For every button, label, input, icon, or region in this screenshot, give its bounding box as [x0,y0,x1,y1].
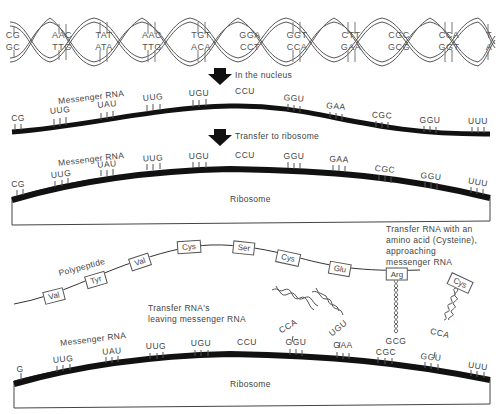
dna-top-base: TAT [95,30,112,40]
codon: G [16,364,23,374]
codon: CG [11,179,25,189]
dna-bottom-base: TTG [52,42,72,52]
codon: CCU [237,337,257,347]
codon: GGU [420,170,442,182]
amino-acid-box: Ser [232,240,256,255]
dna-top-base: GGA [239,30,261,40]
codon: GGU [420,115,441,125]
codon: GGU [286,337,307,347]
codon: CGC [372,109,393,120]
dna-top-base: AAC [142,30,162,40]
codon: UAU [97,98,117,110]
codon: GAA [326,100,346,112]
codon: UGU [189,88,209,98]
codon: CGC [376,347,396,357]
codon: UUG [49,104,70,116]
dna-top-base: GGT [287,30,308,40]
dna-top-base: CTT [342,30,361,40]
trna-bound [394,279,397,333]
dna-bottom-base: A [486,42,493,52]
codon: GGU [284,151,305,161]
codon: UUU [468,116,488,126]
dna-top-base: CG [6,30,21,40]
codon: UGU [191,338,211,348]
dna-bottom-base: CCT [240,42,260,52]
trna-approaching-note: Transfer RNA with an amino acid (Cystein… [386,224,477,268]
arrow-down-icon [208,129,232,146]
dna-bottom-base: CCA [287,42,308,52]
codon: GAA [333,340,352,350]
codon: GGU [283,92,305,103]
codon: UUG [142,91,163,103]
codon: GAA [329,153,349,164]
trna-leaving-note: Transfer RNA's leaving messenger RNA [148,303,246,325]
dna-bottom-base: ATA [95,42,113,52]
trna-leaving-2 [312,288,343,315]
dna-bottom-base: GC [6,42,21,52]
codon: CCU [235,150,255,160]
dna-top-base: T [486,30,492,40]
codon: CG [11,113,25,123]
dna-top-base: TGT [191,30,211,40]
dna-bottom-base: GAA [341,42,362,52]
dna-bottom-base: TTG [142,42,162,52]
codon: UUG [52,353,73,365]
codon: CCU [235,86,255,96]
dna-bottom-base: GCG [388,42,410,52]
codon: UUG [146,341,166,351]
step-label-nucleus: In the nucleus [235,70,292,80]
dna-top-base: CCA [439,30,460,40]
codon: UAU [102,345,122,357]
ribosome-label: Ribosome [230,194,271,204]
codon: UAU [97,158,117,170]
mrna-strand-1 [12,106,490,134]
polypeptide-chain [14,245,420,304]
amino-acid-box: Cys [177,240,202,255]
arrow-down-icon [208,68,232,85]
dna-top-base: AAC [52,30,72,40]
dna-top-base: CGC [388,30,410,40]
step-label-transfer: Transfer to ribosome [235,131,319,141]
codon: UGU [189,151,209,161]
trna-approaching [444,288,458,320]
codon: UUG [143,152,164,163]
amino-acid-box: Arg [386,268,408,281]
dna-bottom-base: GGT [439,42,460,52]
codon: GGU [420,351,442,363]
ribosome-label: Ribosome [230,379,271,389]
codon: CGC [374,163,395,175]
anticodon: GCG [386,336,407,346]
dna-bottom-base: ACA [191,42,211,52]
trna-leaving-1 [272,286,318,310]
